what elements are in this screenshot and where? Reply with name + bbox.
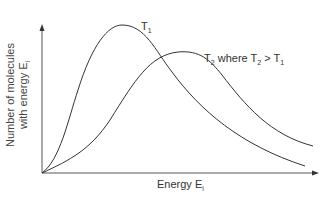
y-axis-label: Number of molecules with energy Ei [4,35,34,155]
label-t2: T2 where T2 > T1 [204,52,284,66]
label-t1: T1 [141,20,152,34]
x-axis-arrow-icon [312,171,319,176]
x-axis-label: Energy Ei [157,178,204,192]
diagram-canvas [0,0,328,199]
curve-t2 [42,52,313,173]
y-axis-arrow-icon [40,24,45,31]
